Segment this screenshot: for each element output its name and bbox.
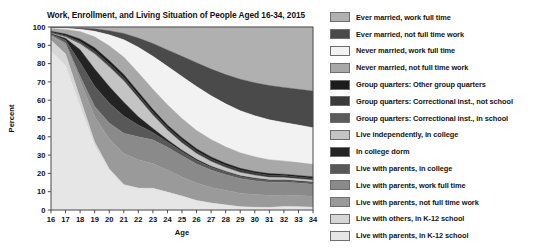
x-tick-label: 23 [149,215,157,224]
y-tick-label: 30 [37,151,45,160]
legend-label: Live with parents, work full time [356,181,465,190]
chart-legend: Ever married, work full timeEver married… [330,9,534,244]
x-tick-label: 34 [309,215,318,224]
legend-item[interactable]: Ever married, work full time [330,9,534,26]
legend-item[interactable]: Group quarters: Other group quarters [330,76,534,93]
legend-label: Live with parents, in K-12 school [356,231,468,240]
legend-label: Group quarters: Other group quarters [356,80,486,89]
legend-label: Live with others, in K-12 school [356,214,464,223]
legend-label: Live with parents, in college [356,164,452,173]
y-tick-label: 90 [37,41,45,50]
x-tick-label: 29 [236,215,244,224]
x-tick-label: 27 [207,215,215,224]
legend-label: Ever married, work full time [356,13,451,22]
legend-swatch [330,130,350,140]
legend-item[interactable]: Live with parents, in K-12 school [330,227,534,244]
legend-item[interactable]: Live with parents, not full time work [330,194,534,211]
legend-swatch [330,231,350,241]
x-tick-label: 21 [120,215,129,224]
legend-swatch [330,12,350,22]
y-tick-label: 10 [37,187,45,196]
legend-item[interactable]: Never married, work full time [330,43,534,60]
legend-swatch [330,180,350,190]
x-tick-label: 26 [192,215,200,224]
legend-label: Group quarters: Correctional inst., in s… [356,114,508,123]
legend-swatch [330,96,350,106]
y-tick-label: 60 [37,96,45,105]
x-tick-label: 24 [163,215,172,224]
legend-swatch [330,214,350,224]
legend-item[interactable]: Live independently, in college [330,127,534,144]
legend-swatch [330,29,350,39]
y-axis-title: Percent [7,104,16,132]
x-tick-label: 18 [76,215,84,224]
y-tick-label: 50 [37,114,45,123]
x-tick-label: 33 [294,215,302,224]
x-axis-title: Age [175,228,189,237]
legend-label: Never married, work full time [356,46,455,55]
legend-item[interactable]: Group quarters: Correctional inst., in s… [330,110,534,127]
y-tick-label: 70 [37,78,45,87]
legend-swatch [330,147,350,157]
y-tick-label: 20 [37,169,45,178]
legend-item[interactable]: Never married, not full time work [330,59,534,76]
legend-item[interactable]: Ever married, not full time work [330,26,534,43]
x-tick-label: 30 [251,215,259,224]
x-tick-label: 28 [221,215,229,224]
legend-swatch [330,164,350,174]
legend-label: Live independently, in college [356,130,458,139]
y-axis: 0102030405060708090100 [33,23,51,215]
legend-item[interactable]: Group quarters: Correctional inst., not … [330,93,534,110]
legend-label: Ever married, not full time work [356,30,464,39]
area-bands [51,27,313,210]
chart-root: Work, Enrollment, and Living Situation o… [0,0,536,251]
y-tick-label: 40 [37,133,45,142]
legend-swatch [330,113,350,123]
y-tick-label: 80 [37,59,45,68]
x-tick-label: 25 [178,215,187,224]
x-tick-label: 32 [280,215,288,224]
y-tick-label: 0 [41,206,45,215]
legend-label: Live with parents, not full time work [356,198,479,207]
x-tick-label: 22 [134,215,142,224]
legend-item[interactable]: Live with parents, work full time [330,177,534,194]
legend-swatch [330,46,350,56]
legend-swatch [330,80,350,90]
y-tick-label: 100 [33,23,46,32]
legend-swatch [330,63,350,73]
legend-label: Never married, not full time work [356,63,468,72]
x-tick-label: 16 [47,215,55,224]
x-axis: 16171819202122232425262728293031323334 [47,210,318,224]
x-tick-label: 17 [61,215,69,224]
x-tick-label: 31 [265,215,274,224]
legend-item[interactable]: Live with others, in K-12 school [330,211,534,228]
legend-label: In college dorm [356,147,409,156]
x-tick-label: 19 [90,215,98,224]
legend-item[interactable]: Live with parents, in college [330,160,534,177]
legend-swatch [330,197,350,207]
legend-item[interactable]: In college dorm [330,143,534,160]
legend-label: Group quarters: Correctional inst., not … [356,97,513,106]
x-tick-label: 20 [105,215,113,224]
